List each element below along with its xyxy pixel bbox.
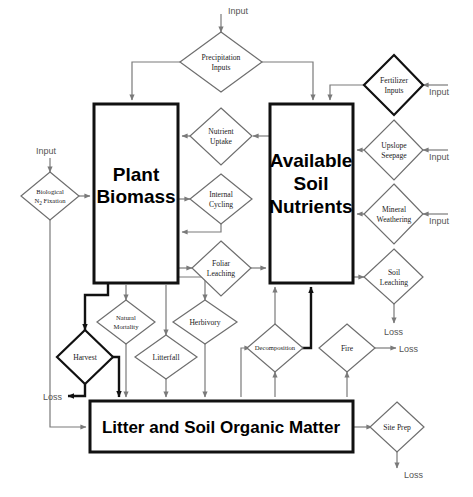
process-precipitation-inputs[interactable]: Precipitation Inputs	[180, 32, 262, 92]
fire-label: Fire	[341, 344, 354, 353]
soil-leaching-label-line2: Leaching	[380, 278, 408, 287]
edge-harvest-litter	[112, 357, 119, 397]
process-foliar-leaching[interactable]: Foliar Leaching	[192, 241, 251, 296]
stock-available-soil-nutrients[interactable]: Available Soil Nutrients	[269, 104, 353, 283]
process-nutrient-uptake[interactable]: Nutrient Uptake	[190, 108, 252, 165]
process-soil-leaching[interactable]: Soil Leaching	[364, 249, 423, 304]
fertilizer-inputs-label-line1: Fertilizer	[380, 76, 408, 85]
asn-label-line2: Soil	[294, 173, 329, 194]
soil-leaching-label-line1: Soil	[388, 268, 400, 277]
biological-n2-fixation-diamond[interactable]	[21, 172, 79, 220]
edge-precipitation-asn	[252, 62, 313, 100]
nutrient-uptake-label-line2: Uptake	[210, 137, 233, 146]
process-biological-n2-fixation[interactable]: Biological N2 Fixation	[21, 172, 79, 220]
upslope-seepage-label-line1: Upslope	[381, 141, 407, 150]
process-fertilizer-inputs[interactable]: Fertilizer Inputs	[364, 55, 423, 115]
process-herbivory[interactable]: Herbivory	[173, 300, 237, 344]
nutrient-cycling-diagram: Plant Biomass Available Soil Nutrients L…	[0, 0, 473, 497]
fertilizer-inputs-label-line2: Inputs	[385, 86, 404, 95]
loss-label-site-prep: Loss	[404, 470, 424, 480]
edge-litter-decomposition	[241, 348, 250, 397]
site-prep-label: Site Prep	[383, 423, 411, 432]
nutrient-uptake-label-line1: Nutrient	[208, 127, 234, 136]
precipitation-inputs-label-line1: Precipitation	[202, 53, 241, 62]
natural-mortality-label-line1: Natural	[116, 314, 136, 321]
process-mineral-weathering[interactable]: Mineral Weathering	[364, 184, 423, 244]
input-label-n2fixation: Input	[36, 146, 57, 156]
internal-cycling-label-line2: Cycling	[209, 200, 233, 209]
edge-decomposition-asn-strong	[302, 287, 311, 348]
mineral-weathering-label-line1: Mineral	[382, 205, 406, 214]
fertilizer-inputs-diamond[interactable]	[364, 55, 423, 115]
input-label-mineral: Input	[429, 216, 450, 226]
asn-label-line1: Available	[270, 150, 353, 171]
edge-internalcycling-plant	[182, 223, 221, 232]
input-label-precipitation: Input	[228, 6, 249, 16]
litter-som-label: Litter and Soil Organic Matter	[102, 418, 340, 437]
loss-label-soil-leaching: Loss	[384, 327, 404, 337]
process-natural-mortality[interactable]: Natural Mortality	[97, 300, 155, 344]
upslope-seepage-label-line2: Seepage	[381, 151, 407, 160]
edge-harvest-loss	[68, 384, 85, 396]
input-label-upslope: Input	[429, 152, 450, 162]
edge-precipitation-plant	[132, 62, 190, 100]
herbivory-label: Herbivory	[189, 318, 220, 327]
process-decomposition[interactable]: Decomposition	[247, 324, 303, 372]
asn-label-line3: Nutrients	[269, 196, 352, 217]
mineral-weathering-diamond[interactable]	[364, 184, 423, 244]
edge-fertilizer-asn	[330, 85, 364, 100]
n2-fixation-label-line1: Biological	[36, 188, 64, 195]
process-site-prep[interactable]: Site Prep	[370, 402, 424, 452]
process-harvest[interactable]: Harvest	[57, 330, 113, 384]
natural-mortality-diamond[interactable]	[97, 300, 155, 344]
foliar-leaching-label-line1: Foliar	[212, 259, 231, 268]
precipitation-inputs-label-line2: Inputs	[212, 63, 231, 72]
plant-biomass-label-line1: Plant	[113, 164, 160, 185]
loss-label-fire: Loss	[399, 344, 419, 354]
internal-cycling-diamond[interactable]	[190, 174, 252, 224]
mineral-weathering-label-line2: Weathering	[377, 215, 412, 224]
natural-mortality-label-line2: Mortality	[114, 323, 140, 330]
harvest-label: Harvest	[73, 353, 98, 362]
plant-biomass-label-line2: Biomass	[96, 186, 175, 207]
litterfall-label: Litterfall	[153, 353, 180, 362]
process-internal-cycling[interactable]: Internal Cycling	[190, 174, 252, 224]
foliar-leaching-label-line2: Leaching	[207, 269, 235, 278]
input-label-fertilizer: Input	[429, 87, 450, 97]
upslope-seepage-diamond[interactable]	[364, 120, 423, 180]
precipitation-inputs-diamond[interactable]	[180, 32, 262, 92]
edge-plant-herbivory	[178, 277, 205, 300]
process-upslope-seepage[interactable]: Upslope Seepage	[364, 120, 423, 180]
stock-plant-biomass[interactable]: Plant Biomass	[94, 104, 178, 283]
process-litterfall[interactable]: Litterfall	[135, 335, 197, 379]
loss-label-harvest: Loss	[43, 392, 63, 402]
process-fire[interactable]: Fire	[319, 324, 375, 372]
internal-cycling-label-line1: Internal	[209, 190, 233, 199]
stock-litter-and-soil-organic-matter[interactable]: Litter and Soil Organic Matter	[90, 401, 353, 452]
decomposition-label: Decomposition	[255, 344, 296, 351]
